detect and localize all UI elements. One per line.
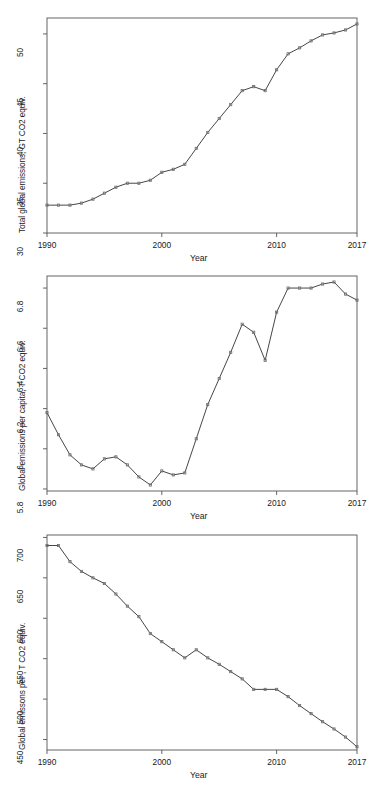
emissions-figure: 30354045501990200020102017Total global e… <box>0 0 372 785</box>
plot-frame <box>47 18 357 233</box>
x-axis-title: Year <box>190 770 207 780</box>
plot-frame <box>47 535 357 750</box>
x-tick-label: 2000 <box>152 240 171 250</box>
y-tick-label: 650 <box>16 576 25 616</box>
x-tick-label: 2017 <box>348 757 367 767</box>
x-tick-label: 2017 <box>348 498 367 508</box>
data-series-line <box>47 24 357 205</box>
y-tick-label: 50 <box>16 32 25 72</box>
chart-panel-total-emissions: 30354045501990200020102017Total global e… <box>0 4 372 262</box>
plot-area-0 <box>0 4 372 262</box>
y-axis-title: Global emissons per , T CO2 equiv. <box>17 623 27 750</box>
x-tick-label: 1990 <box>38 757 57 767</box>
y-axis-title: Total global emissions, GT CO2 equiv. <box>17 96 27 233</box>
x-tick-label: 2010 <box>267 498 286 508</box>
data-series-line <box>47 546 357 747</box>
plot-area-2 <box>0 521 372 779</box>
x-tick-label: 1990 <box>38 240 57 250</box>
y-tick-label: 700 <box>16 536 25 576</box>
x-tick-label: 2000 <box>152 498 171 508</box>
x-tick-label: 2010 <box>267 240 286 250</box>
x-tick-label: 2010 <box>267 757 286 767</box>
x-tick-label: 1990 <box>38 498 57 508</box>
x-axis-title: Year <box>190 511 207 521</box>
y-tick-label: 6.8 <box>16 287 25 327</box>
plot-area-1 <box>0 262 372 520</box>
plot-frame <box>47 276 357 491</box>
y-axis-title: Global emissions per capita, T CO2 equiv… <box>17 341 27 491</box>
chart-panel-per-capita-emissions: 5.866.26.46.66.81990200020102017Global e… <box>0 262 372 520</box>
data-series-line <box>47 282 357 485</box>
x-tick-label: 2000 <box>152 757 171 767</box>
chart-panel-per-gdp-emissions: 4505005506006507001990200020102017Global… <box>0 521 372 779</box>
x-tick-label: 2017 <box>348 240 367 250</box>
